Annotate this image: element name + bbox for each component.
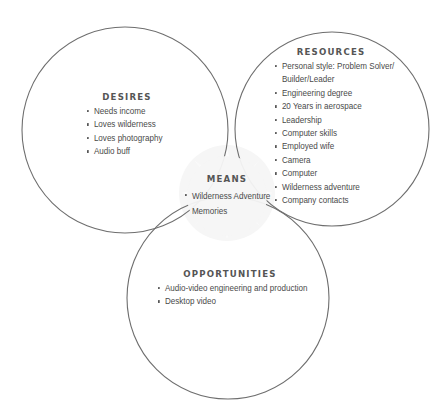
desires-item: Audio buff xyxy=(87,144,156,157)
resources-section: RESOURCES Personal style: Problem Solver… xyxy=(275,46,395,206)
resources-item: Company contacts xyxy=(275,193,378,206)
desires-section: DESIRES Needs income Loves wilderness Lo… xyxy=(87,91,167,158)
means-section: MEANS Wilderness Adventure Memories xyxy=(185,173,275,218)
opportunities-item: Desktop video xyxy=(158,294,296,307)
opportunities-section: OPPORTUNITIES Audio-video engineering an… xyxy=(158,268,318,308)
opportunities-heading: OPPORTUNITIES xyxy=(158,268,302,280)
resources-item: Personal style: Problem Solver/ xyxy=(275,59,378,72)
resources-item: Computer skills xyxy=(275,126,378,139)
desires-item: Loves wilderness xyxy=(87,117,156,130)
desires-list: Needs income Loves wilderness Loves phot… xyxy=(87,104,167,158)
means-list: Wilderness Adventure Memories xyxy=(185,188,275,218)
desires-heading: DESIRES xyxy=(87,91,167,103)
means-item: Wilderness Adventure xyxy=(185,188,262,203)
desires-item: Needs income xyxy=(87,104,156,117)
resources-item: Leadership xyxy=(275,113,378,126)
opportunities-list: Audio-video engineering and production D… xyxy=(158,281,318,308)
resources-item: Employed wife xyxy=(275,139,378,152)
resources-item: 20 Years in aerospace xyxy=(275,99,378,112)
opportunities-item: Audio-video engineering and production xyxy=(158,281,296,294)
resources-item: Camera xyxy=(275,153,378,166)
resources-item-continuation: Builder/Leader xyxy=(275,72,378,85)
means-heading: MEANS xyxy=(185,173,269,185)
resources-item: Engineering degree xyxy=(275,86,378,99)
resources-heading: RESOURCES xyxy=(275,46,387,58)
resources-item: Computer xyxy=(275,166,378,179)
desires-item: Loves photography xyxy=(87,131,156,144)
resources-item: Wilderness adventure xyxy=(275,180,378,193)
means-item-continuation: Memories xyxy=(185,203,262,218)
resources-list: Personal style: Problem Solver/ Builder/… xyxy=(275,59,395,206)
